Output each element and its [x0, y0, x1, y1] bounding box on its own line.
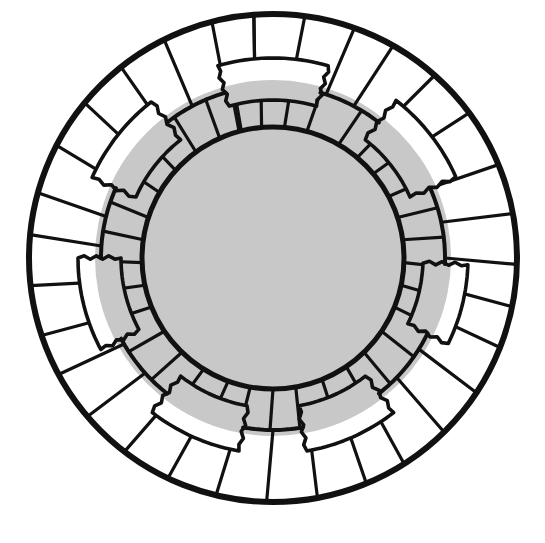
- inner-circle: [142, 127, 404, 389]
- ring-cross-section-diagram: [0, 0, 545, 543]
